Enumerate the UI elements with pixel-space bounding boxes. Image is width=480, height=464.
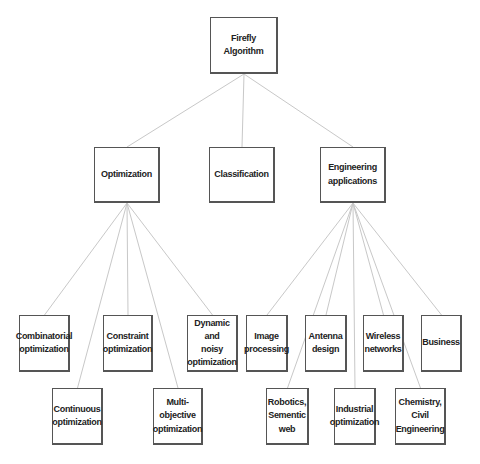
node-label: Dynamic and noisy optimization [187,317,236,369]
edge-engineering-industrial [353,203,355,388]
firefly-algorithm-taxonomy-diagram: Firefly Algorithm Optimization Classific… [0,0,480,464]
edge-optimization-constraint [127,203,128,315]
node-engineering-applications: Engineering applications [320,147,386,203]
node-label: Business [422,336,460,349]
node-label: Classification [214,168,268,181]
node-continuous-optimization: Continuous optimization [52,388,103,445]
node-chemistry-civil-engineering: Chemistry, Civil Engineering [395,388,446,445]
node-label: Antenna design [309,330,343,356]
node-label: Engineering applications [328,161,377,187]
node-firefly-algorithm: Firefly Algorithm [210,17,278,74]
edge-engineering-wireless [353,203,384,315]
node-classification: Classification [209,147,275,203]
edge-engineering-image [267,203,353,315]
edge-optimization-combinatorial [45,203,128,315]
node-label: Industrial optimization [330,403,379,429]
node-robotics-semantic-web: Robotics, Sementic web [266,388,309,445]
edge-root-optimization [127,74,244,147]
node-wireless-networks: Wireless networks [363,315,404,372]
node-optimization: Optimization [94,147,160,203]
node-label: Robotics, Sementic web [268,396,306,435]
node-label: Image processing [244,330,289,356]
edge-engineering-business [353,203,442,315]
node-antenna-design: Antenna design [305,315,347,372]
node-multi-objective-optimization: Multi-objective optimization [153,388,203,445]
node-label: Firefly Algorithm [213,32,274,58]
node-label: Multi-objective optimization [153,396,202,435]
node-dynamic-noisy-optimization: Dynamic and noisy optimization [187,315,238,372]
node-image-processing: Image processing [246,315,288,372]
node-label: Optimization [101,168,152,181]
node-industrial-optimization: Industrial optimization [334,388,376,445]
edge-root-classification [242,74,244,147]
node-label: Continuous optimization [52,403,101,429]
node-label: Constraint optimization [103,330,152,356]
edge-root-engineering [244,74,353,147]
node-constraint-optimization: Constraint optimization [103,315,153,372]
edge-optimization-dynamic [127,203,213,315]
node-label: Chemistry, Civil Engineering [396,396,445,435]
node-business: Business [421,315,462,372]
node-label: Combinatorial optimization [16,330,73,356]
node-combinatorial-optimization: Combinatorial optimization [19,315,70,372]
node-label: Wireless networks [364,330,401,356]
